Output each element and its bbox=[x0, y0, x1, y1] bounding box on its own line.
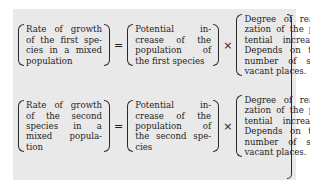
brace-group-realization: Degree of reali- zation of the po- tenti… bbox=[236, 14, 310, 76]
equals-sign: = bbox=[114, 39, 123, 52]
text-line: Rate of growth bbox=[26, 100, 102, 110]
text-line: Rate of growth bbox=[26, 24, 102, 34]
text-line: the second spe- bbox=[135, 131, 211, 141]
text-line: population of bbox=[135, 121, 211, 131]
text-line: zation of the po- bbox=[244, 105, 310, 115]
text-line: Depends on the bbox=[244, 126, 310, 136]
right-brace bbox=[104, 100, 110, 152]
right-brace bbox=[104, 24, 110, 66]
text-line: tion bbox=[26, 142, 102, 152]
brace-group-realization: Degree of reali- zation of the po- tenti… bbox=[236, 95, 310, 157]
degree-of-realization-text: Degree of reali- zation of the po- tenti… bbox=[244, 14, 310, 76]
text-line: crease of the bbox=[135, 35, 211, 45]
right-brace bbox=[213, 100, 219, 152]
equation-second-species: Rate of growth of the second species in … bbox=[18, 95, 310, 157]
text-line: tential increase. bbox=[244, 35, 310, 45]
potential-increase-text: Potential in- crease of the population o… bbox=[135, 100, 211, 152]
text-line: population of bbox=[135, 45, 211, 55]
left-brace bbox=[236, 95, 242, 157]
text-line: population bbox=[26, 56, 102, 66]
right-brace bbox=[213, 24, 219, 66]
brace-group-rate: Rate of growth of the first spe- cies in… bbox=[18, 24, 110, 66]
left-brace bbox=[18, 100, 24, 152]
text-line: vacant places. bbox=[244, 147, 310, 157]
potential-increase-text: Potential in- crease of the population o… bbox=[135, 24, 211, 66]
text-line: of the first spe- bbox=[26, 35, 102, 45]
text-line: Potential in- bbox=[135, 24, 211, 34]
equation-first-species: Rate of growth of the first spe- cies in… bbox=[18, 14, 310, 76]
text-line: of the second bbox=[26, 111, 102, 121]
text-line: number of still bbox=[244, 56, 310, 66]
rate-of-growth-text: Rate of growth of the first spe- cies in… bbox=[26, 24, 102, 66]
text-line: vacant places. bbox=[244, 66, 310, 76]
text-line: Depends on the bbox=[244, 45, 310, 55]
brace-group-potential: Potential in- crease of the population o… bbox=[127, 100, 219, 152]
times-sign: × bbox=[223, 39, 232, 52]
text-line: cies bbox=[135, 142, 211, 152]
text-line: species in a bbox=[26, 121, 102, 131]
brace-group-potential: Potential in- crease of the population o… bbox=[127, 24, 219, 66]
degree-of-realization-text: Degree of reali- zation of the po- tenti… bbox=[244, 95, 310, 157]
text-line: mixed popula- bbox=[26, 131, 102, 141]
left-brace bbox=[127, 100, 133, 152]
text-line: crease of the bbox=[135, 111, 211, 121]
rate-of-growth-text: Rate of growth of the second species in … bbox=[26, 100, 102, 152]
left-brace bbox=[236, 14, 242, 76]
text-line: tential increase. bbox=[244, 116, 310, 126]
text-line: Degree of reali- bbox=[244, 95, 310, 105]
equals-sign: = bbox=[114, 120, 123, 133]
left-brace bbox=[18, 24, 24, 66]
text-line: Potential in- bbox=[135, 100, 211, 110]
text-line: the first species bbox=[135, 56, 211, 66]
text-line: Degree of reali- bbox=[244, 14, 310, 24]
left-brace bbox=[127, 24, 133, 66]
text-line: number of still bbox=[244, 137, 310, 147]
times-sign: × bbox=[223, 120, 232, 133]
brace-group-rate: Rate of growth of the second species in … bbox=[18, 100, 110, 152]
outer-right-brace bbox=[287, 14, 292, 179]
text-line: cies in a mixed bbox=[26, 45, 102, 55]
text-line: zation of the po- bbox=[244, 24, 310, 34]
